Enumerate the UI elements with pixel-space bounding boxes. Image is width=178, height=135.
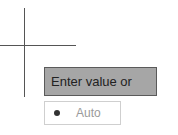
crosshair-horizontal-line	[0, 45, 76, 46]
value-input-placeholder: Enter value or	[51, 74, 132, 89]
auto-option-label: Auto	[76, 106, 101, 120]
value-input[interactable]: Enter value or	[44, 67, 157, 96]
bullet-dot-icon	[54, 110, 60, 116]
crosshair-vertical-line	[24, 8, 25, 97]
auto-option[interactable]: Auto	[44, 101, 121, 125]
